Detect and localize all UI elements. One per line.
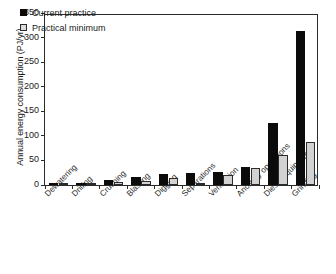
bar xyxy=(268,123,278,185)
legend-label: Practical minimum xyxy=(32,23,106,33)
y-tick-label: 50 xyxy=(29,154,39,165)
bar xyxy=(59,183,69,185)
bar xyxy=(296,31,306,185)
y-tick-mark xyxy=(41,160,45,161)
y-tick-mark xyxy=(41,62,45,63)
bar xyxy=(114,182,124,185)
y-tick-mark xyxy=(41,37,45,38)
bar xyxy=(76,183,86,185)
x-tick-label: Drilling xyxy=(70,174,94,198)
y-tick-label: 0 xyxy=(34,179,39,190)
bar xyxy=(213,172,223,185)
y-tick-mark xyxy=(41,86,45,87)
plot-area: 050100150200250300350 DewateringDrilling… xyxy=(44,14,318,186)
bar xyxy=(186,173,196,185)
bar xyxy=(169,178,179,185)
y-tick-label: 200 xyxy=(24,81,39,92)
bar xyxy=(131,177,141,185)
bar xyxy=(196,183,206,185)
y-tick-mark xyxy=(41,135,45,136)
x-tick-mark xyxy=(319,185,320,189)
y-tick-label: 150 xyxy=(24,105,39,116)
y-tick-mark xyxy=(41,111,45,112)
bar xyxy=(278,155,288,185)
chart-legend: Current practicePractical minimum xyxy=(20,5,106,35)
legend-item: Current practice xyxy=(20,5,106,20)
y-tick-label: 100 xyxy=(24,130,39,141)
bar xyxy=(159,174,169,185)
energy-consumption-bar-chart: Annual energy consumption (PJ/yr) 050100… xyxy=(0,0,336,274)
y-tick-label: 250 xyxy=(24,56,39,67)
bar xyxy=(306,142,316,185)
bar xyxy=(141,181,151,185)
legend-swatch-current-practice xyxy=(20,9,27,16)
bar xyxy=(223,175,233,185)
bar xyxy=(251,168,261,185)
legend-label: Current practice xyxy=(32,8,96,18)
bar xyxy=(241,167,251,185)
bar xyxy=(49,183,59,185)
legend-swatch-practical-minimum xyxy=(20,24,27,31)
bar xyxy=(86,183,96,185)
legend-item: Practical minimum xyxy=(20,20,106,35)
bar xyxy=(104,180,114,185)
